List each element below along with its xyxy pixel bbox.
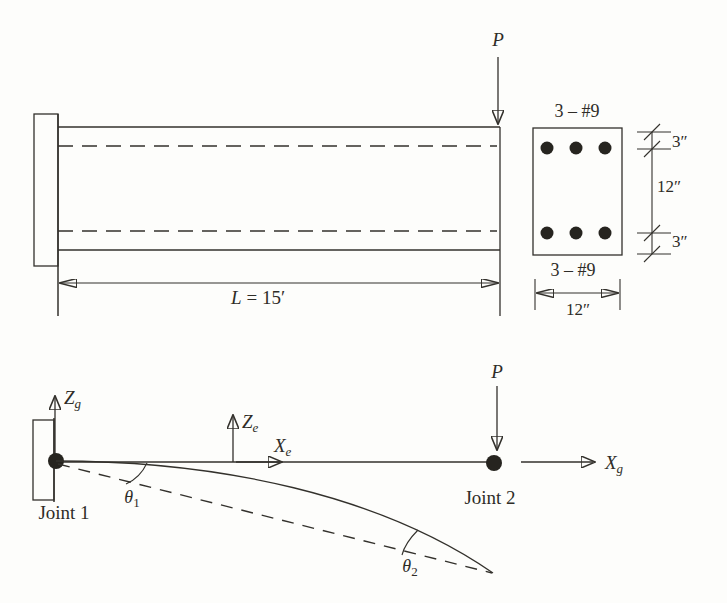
joint2-node — [486, 455, 502, 471]
rebar — [599, 142, 612, 155]
width-label: 12″ — [566, 300, 590, 319]
deflected-shape-figure: Zg Ze Xe P Xg Joint 1 Joint 2 θ1 θ2 — [33, 361, 624, 579]
element-z-axis-label: Ze — [242, 411, 259, 435]
theta1-arc — [126, 463, 147, 484]
rebar — [599, 227, 612, 240]
width-dimension: 12″ — [535, 279, 620, 319]
core-depth-label: 12″ — [657, 177, 681, 196]
top-bars-label: 3 – #9 — [555, 101, 600, 121]
length-dimension-label: L= 15′ — [230, 287, 285, 308]
joint1-label: Joint 1 — [38, 502, 89, 523]
theta2-label: θ2 — [402, 556, 417, 579]
load-label: P — [491, 29, 504, 50]
figure-canvas: P L= 15′ 3 – #9 3 – #9 — [0, 0, 727, 603]
cross-section-figure: 3 – #9 3 – #9 3″ 12″ 3″ 12″ — [533, 101, 688, 319]
rebar — [570, 142, 583, 155]
load-label-2: P — [490, 361, 503, 382]
rebar-bottom-row — [541, 227, 612, 240]
fixed-support-hatch — [34, 114, 58, 266]
top-cover-label: 3″ — [672, 132, 688, 151]
depth-dimension: 3″ 12″ 3″ — [637, 124, 688, 262]
chord-dashed-line — [58, 464, 492, 573]
length-value: = 15′ — [246, 287, 285, 308]
rebar — [541, 227, 554, 240]
length-variable: L — [230, 287, 242, 308]
scanned-figure-page: P L= 15′ 3 – #9 3 – #9 — [0, 0, 727, 603]
theta1-label: θ1 — [124, 487, 139, 510]
global-x-axis-label: Xg — [604, 452, 624, 476]
bottom-bars-label: 3 – #9 — [551, 260, 596, 280]
beam-elevation-figure: P L= 15′ — [34, 29, 504, 316]
rebar — [570, 227, 583, 240]
joint2-label: Joint 2 — [464, 487, 515, 508]
bottom-cover-label: 3″ — [672, 232, 688, 251]
rebar-top-row — [541, 142, 612, 155]
global-z-axis-label: Zg — [64, 387, 82, 411]
rebar — [541, 142, 554, 155]
element-x-axis-label: Xe — [273, 435, 292, 459]
